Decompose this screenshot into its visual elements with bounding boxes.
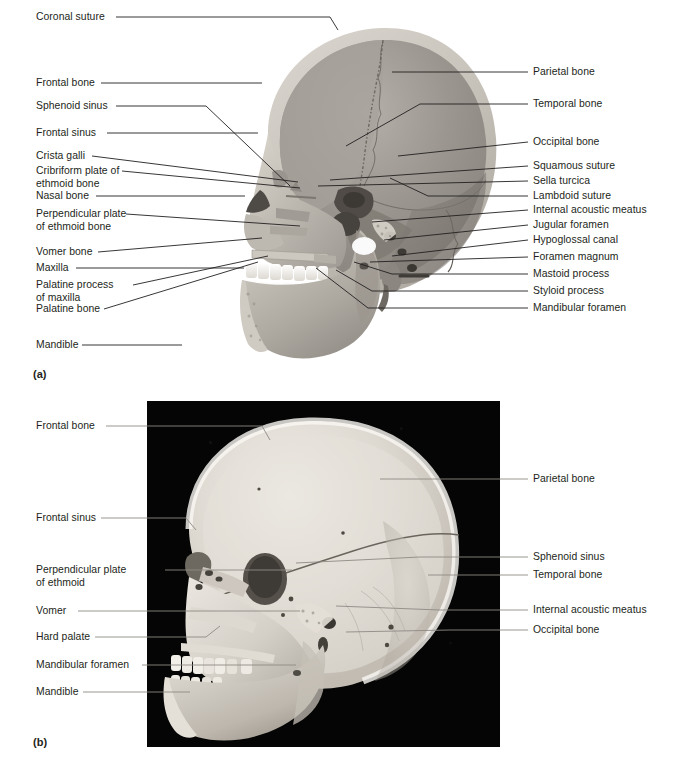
label-b-parietal-bone: Parietal bone <box>533 473 595 486</box>
label-b-frontal-bone: Frontal bone <box>36 420 95 433</box>
sella-turcica-fossa <box>343 192 365 208</box>
label-a-sella-turcica: Sella turcica <box>533 175 590 188</box>
panel-letter-a: (a) <box>33 368 46 380</box>
label-a-jugular-foramen: Jugular foramen <box>533 219 609 232</box>
skull-figure: Coronal suture Frontal bone Sphenoid sin… <box>0 0 682 762</box>
skull-photograph-panel-b <box>147 401 500 747</box>
label-a-vomer-bone: Vomer bone <box>36 246 92 259</box>
photo-sphenoid-sinus-inner <box>248 556 282 598</box>
label-b-occipital-bone: Occipital bone <box>533 624 599 637</box>
label-a-hypoglossal-canal: Hypoglossal canal <box>533 234 618 247</box>
label-a-frontal-bone: Frontal bone <box>36 77 95 90</box>
mandibular-foramen <box>360 263 369 270</box>
label-a-internal-acoustic-meatus: Internal acoustic meatus <box>533 204 647 217</box>
label-a-temporal-bone: Temporal bone <box>533 98 602 111</box>
skull-photo-drawing <box>147 401 500 747</box>
label-a-maxilla: Maxilla <box>36 262 69 275</box>
photo-mandibular-foramen <box>293 670 301 676</box>
label-a-mandibular-foramen: Mandibular foramen <box>533 302 626 315</box>
label-a-palatine-bone: Palatine bone <box>36 303 100 316</box>
skull-sagittal-drawing <box>150 14 510 366</box>
label-a-lambdoid-suture: Lambdoid suture <box>533 190 611 203</box>
label-a-palatine-process: Palatine process of maxilla <box>36 279 113 304</box>
label-a-perpendicular-plate: Perpendicular plate of ethmoid bone <box>36 208 126 233</box>
label-a-parietal-bone: Parietal bone <box>533 66 595 79</box>
label-b-temporal-bone: Temporal bone <box>533 569 602 582</box>
label-b-internal-acoustic-meatus: Internal acoustic meatus <box>533 604 647 617</box>
label-a-mastoid-process: Mastoid process <box>533 268 609 281</box>
hypoglossal-canal <box>407 264 417 272</box>
label-a-sphenoid-sinus: Sphenoid sinus <box>36 100 108 113</box>
label-a-occipital-bone: Occipital bone <box>533 136 599 149</box>
label-b-frontal-sinus: Frontal sinus <box>36 512 96 525</box>
label-a-nasal-bone: Nasal bone <box>36 190 89 203</box>
jugular-foramen <box>398 249 407 256</box>
mandibular-fossa-void <box>352 237 376 255</box>
label-a-styloid-process: Styloid process <box>533 285 604 298</box>
label-a-foramen-magnum: Foramen magnum <box>533 251 618 264</box>
label-a-crista-galli: Crista galli <box>36 150 85 163</box>
label-a-cribriform-plate: Cribriform plate of ethmoid bone <box>36 165 119 190</box>
label-b-mandible: Mandible <box>36 686 79 699</box>
label-a-mandible: Mandible <box>36 339 79 352</box>
label-b-perpendicular-plate: Perpendicular plate of ethmoid <box>36 564 126 589</box>
label-a-frontal-sinus: Frontal sinus <box>36 127 96 140</box>
skull-illustration-panel-a <box>150 14 510 366</box>
label-a-squamous-suture: Squamous suture <box>533 160 615 173</box>
label-b-hard-palate: Hard palate <box>36 631 90 644</box>
panel-letter-b: (b) <box>33 736 47 748</box>
label-b-sphenoid-sinus: Sphenoid sinus <box>533 551 605 564</box>
label-b-vomer: Vomer <box>36 605 66 618</box>
label-a-coronal-suture: Coronal suture <box>36 11 105 24</box>
label-b-mandibular-foramen: Mandibular foramen <box>36 659 129 672</box>
